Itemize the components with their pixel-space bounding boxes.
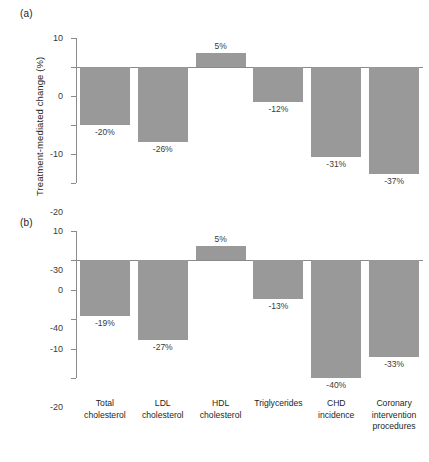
bar-value-label: -33%	[384, 359, 404, 369]
bar	[253, 260, 303, 298]
bar	[196, 246, 246, 261]
bar-value-label: -19%	[95, 318, 115, 328]
x-category-label: Coronaryinterventionprocedures	[358, 398, 429, 433]
bar	[311, 260, 361, 378]
y-tick-label: 0	[58, 91, 63, 101]
y-tick-mark: -40	[71, 378, 76, 379]
bar	[369, 67, 419, 174]
figure: (a) Treatment-mediated change (%) 100-10…	[0, 0, 429, 462]
y-tick-label: -10	[50, 344, 63, 354]
y-tick-mark: -40	[71, 183, 76, 184]
bar-value-label: -27%	[153, 342, 173, 352]
panel-a-label: (a)	[20, 8, 33, 19]
bar-value-label: -20%	[95, 127, 115, 137]
panel-a-plot-area: 100-10-20-30-40 -20%-26%5%-12%-31%-37%	[76, 38, 423, 183]
x-axis-category-labels: TotalcholesterolLDLcholesterolHDLcholest…	[76, 398, 423, 458]
panel-b-plot-area: 100-10-20-30-40 -19%-27%5%-13%-40%-33%	[76, 231, 423, 378]
bar	[253, 67, 303, 102]
bar-value-label: -31%	[326, 159, 346, 169]
bar	[369, 260, 419, 357]
bar	[196, 53, 246, 68]
bar-value-label: -37%	[384, 176, 404, 186]
y-tick-label: 10	[53, 226, 63, 236]
panel-b-label: (b)	[20, 217, 33, 228]
bar-value-label: -40%	[326, 380, 346, 390]
y-tick-label: 10	[53, 33, 63, 43]
panel-b-bars: -19%-27%5%-13%-40%-33%	[76, 231, 423, 378]
bar-value-label: 5%	[214, 41, 226, 51]
bar	[311, 67, 361, 157]
bar	[80, 260, 130, 316]
panel-a-bars: -20%-26%5%-12%-31%-37%	[76, 38, 423, 183]
bar-value-label: -13%	[268, 301, 288, 311]
bar-value-label: -26%	[153, 144, 173, 154]
bar	[80, 67, 130, 125]
panel-a-y-axis-title: Treatment-mediated change (%)	[34, 57, 45, 196]
bar	[138, 67, 188, 142]
y-tick-label: -10	[50, 149, 63, 159]
y-tick-label: 0	[58, 285, 63, 295]
bar	[138, 260, 188, 339]
bar-value-label: -12%	[268, 104, 288, 114]
y-tick-label: -20	[50, 402, 63, 412]
bar-value-label: 5%	[214, 234, 226, 244]
